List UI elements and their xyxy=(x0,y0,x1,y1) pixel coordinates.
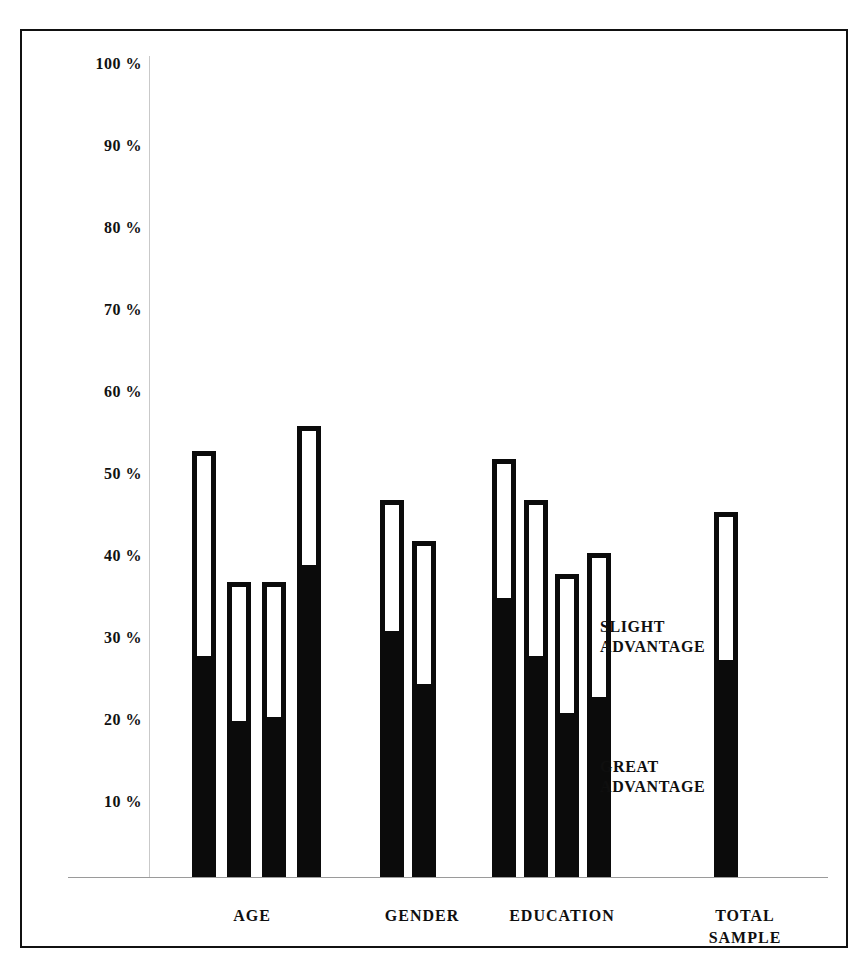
y-tick-20: 20 % xyxy=(22,712,142,728)
y-tick-label: 60 % xyxy=(34,384,142,400)
bar-2 xyxy=(227,582,251,877)
plot-area: 100 % 90 % 80 % 70 % 60 % 50 % 40 % 30 %… xyxy=(22,31,850,950)
bar-3 xyxy=(262,582,286,877)
y-tick-90: 90 % xyxy=(22,138,142,154)
y-tick-label: 100 % xyxy=(34,56,142,72)
group-label-age: AGE xyxy=(172,905,332,927)
bar-7 xyxy=(492,459,516,877)
bar-4 xyxy=(297,426,321,877)
y-tick-label: 40 % xyxy=(34,548,142,564)
legend-great-advantage: GREAT ADVANTAGE xyxy=(600,757,705,797)
bar-segment-great-advantage xyxy=(262,717,286,877)
y-tick-80: 80 % xyxy=(22,220,142,236)
bar-5 xyxy=(380,500,404,877)
y-tick-label: 30 % xyxy=(34,630,142,646)
y-tick-label: 10 % xyxy=(34,794,142,810)
bar-segment-great-advantage xyxy=(492,598,516,877)
y-tick-50: 50 % xyxy=(22,466,142,482)
figure-frame: 100 % 90 % 80 % 70 % 60 % 50 % 40 % 30 %… xyxy=(20,29,848,948)
bar-8 xyxy=(524,500,548,877)
y-tick-10: 10 % xyxy=(22,794,142,810)
bar-segment-great-advantage xyxy=(412,684,436,877)
bar-1 xyxy=(192,451,216,877)
y-tick-label: 90 % xyxy=(34,138,142,154)
bar-segment-great-advantage xyxy=(297,565,321,877)
legend-slight-advantage: SLIGHT ADVANTAGE xyxy=(600,617,705,657)
group-label-total-sample: TOTAL SAMPLE xyxy=(670,905,820,949)
bar-segment-great-advantage xyxy=(227,721,251,877)
bar-6 xyxy=(412,541,436,877)
bar-segment-great-advantage xyxy=(380,631,404,877)
y-tick-30: 30 % xyxy=(22,630,142,646)
bar-segment-great-advantage xyxy=(555,713,579,877)
y-tick-40: 40 % xyxy=(22,548,142,564)
y-tick-label: 50 % xyxy=(34,466,142,482)
y-tick-70: 70 % xyxy=(22,302,142,318)
y-tick-label: 80 % xyxy=(34,220,142,236)
x-axis-line xyxy=(68,877,828,878)
y-tick-label: 20 % xyxy=(34,712,142,728)
bar-segment-great-advantage xyxy=(192,656,216,877)
bar-segment-great-advantage xyxy=(714,660,738,877)
group-label-education: EDUCATION xyxy=(467,905,657,927)
bar-segment-great-advantage xyxy=(524,656,548,877)
y-tick-60: 60 % xyxy=(22,384,142,400)
y-tick-label: 70 % xyxy=(34,302,142,318)
bar-10 xyxy=(587,553,611,877)
bar-9 xyxy=(555,574,579,877)
y-tick-100: 100 % xyxy=(22,56,142,72)
y-axis-line xyxy=(149,56,150,878)
bar-11 xyxy=(714,512,738,877)
